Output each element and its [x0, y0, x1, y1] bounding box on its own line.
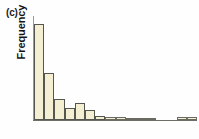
histogram-bar [34, 24, 44, 120]
histogram-bar [85, 110, 95, 120]
histogram-bar [116, 117, 126, 120]
histogram-figure: (c) Frequency [0, 0, 199, 139]
plot-area [33, 16, 197, 121]
bar-series [34, 16, 197, 120]
histogram-bar [126, 118, 136, 121]
histogram-bar [187, 117, 197, 120]
histogram-bar [54, 99, 64, 120]
histogram-bar [95, 116, 105, 120]
histogram-bar [177, 117, 187, 120]
histogram-bar [105, 117, 115, 120]
histogram-bar [44, 73, 54, 120]
histogram-bar [75, 103, 85, 120]
histogram-bar [136, 118, 146, 121]
histogram-bar [146, 118, 156, 121]
y-axis-label: Frequency [15, 0, 27, 75]
histogram-bar [65, 108, 75, 120]
x-axis-line [33, 120, 197, 121]
